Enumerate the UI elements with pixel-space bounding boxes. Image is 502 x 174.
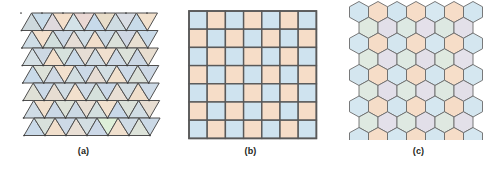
- lattice-vertex: [20, 12, 22, 14]
- lattice-vertex: [128, 135, 130, 137]
- lattice-vertex: [23, 135, 25, 137]
- square-cell: [207, 120, 225, 138]
- lattice-vertex: [107, 117, 109, 119]
- square-cell: [225, 11, 243, 29]
- square-cell: [280, 47, 298, 65]
- lattice-vertex: [147, 47, 149, 49]
- panel-b-square-tiling: (b): [167, 0, 334, 174]
- square-cell: [262, 66, 280, 84]
- tilings-figure: (a) (b) (c): [0, 0, 502, 174]
- square-tiling-canvas: [167, 0, 334, 140]
- lattice-vertex: [86, 135, 88, 137]
- square-cell: [244, 66, 262, 84]
- lattice-vertex: [44, 117, 46, 119]
- lattice-vertex: [22, 82, 24, 84]
- lattice-vertex: [21, 30, 23, 32]
- square-cell: [225, 120, 243, 138]
- square-cell: [189, 66, 207, 84]
- lattice-vertex: [127, 82, 129, 84]
- lattice-vertex: [65, 117, 67, 119]
- triangular-tiling-canvas: [0, 0, 167, 140]
- lattice-vertex: [43, 82, 45, 84]
- square-cell: [207, 29, 225, 47]
- lattice-vertex: [149, 135, 151, 137]
- square-cells: [189, 11, 316, 138]
- square-cell: [189, 120, 207, 138]
- lattice-vertex: [42, 65, 44, 67]
- lattice-vertex: [83, 12, 85, 14]
- lattice-vertex: [43, 100, 45, 102]
- lattice-vertex: [104, 12, 106, 14]
- square-cell: [244, 11, 262, 29]
- square-cell: [189, 29, 207, 47]
- lattice-vertex: [126, 30, 128, 32]
- panel-c-label: (c): [335, 146, 502, 156]
- panel-b-label: (b): [167, 146, 334, 156]
- square-cell: [280, 120, 298, 138]
- lattice-vertex: [84, 65, 86, 67]
- lattice-vertex: [64, 82, 66, 84]
- square-cell: [244, 47, 262, 65]
- lattice-vertex: [128, 117, 130, 119]
- lattice-vertex: [42, 30, 44, 32]
- square-cell: [280, 29, 298, 47]
- lattice-vertex: [148, 100, 150, 102]
- lattice-vertex: [126, 47, 128, 49]
- lattice-vertex: [105, 30, 107, 32]
- square-cell: [262, 29, 280, 47]
- lattice-vertex: [126, 65, 128, 67]
- square-cell: [244, 120, 262, 138]
- square-tiling-svg: [167, 0, 334, 140]
- lattice-vertex: [62, 12, 64, 14]
- triangular-tiling-svg: [0, 0, 167, 140]
- lattice-vertex: [105, 47, 107, 49]
- lattice-vertex: [106, 82, 108, 84]
- square-cell: [298, 120, 316, 138]
- lattice-vertex: [64, 100, 66, 102]
- square-cell: [207, 47, 225, 65]
- lattice-vertex: [147, 65, 149, 67]
- square-cell: [244, 29, 262, 47]
- square-cell: [298, 11, 316, 29]
- square-cell: [262, 102, 280, 120]
- lattice-vertex: [22, 100, 24, 102]
- square-cell: [298, 29, 316, 47]
- lattice-vertex: [44, 135, 46, 137]
- lattice-vertex: [21, 47, 23, 49]
- lattice-vertex: [42, 47, 44, 49]
- lattice-vertex: [127, 100, 129, 102]
- lattice-vertex: [105, 65, 107, 67]
- square-cell: [207, 102, 225, 120]
- lattice-vertex: [65, 135, 67, 137]
- lattice-vertex: [84, 30, 86, 32]
- lattice-vertex: [146, 12, 148, 14]
- hexagon-cells: [350, 2, 483, 141]
- hexagonal-tiling-canvas: [335, 0, 502, 140]
- square-cell: [225, 102, 243, 120]
- triangle-cells: [21, 13, 160, 136]
- square-cell: [244, 102, 262, 120]
- square-cell: [280, 102, 298, 120]
- square-cell: [207, 11, 225, 29]
- square-cell: [189, 11, 207, 29]
- lattice-vertex: [125, 12, 127, 14]
- square-cell: [262, 84, 280, 102]
- square-cell: [298, 66, 316, 84]
- square-cell: [189, 47, 207, 65]
- lattice-vertex: [21, 65, 23, 67]
- lattice-vertex: [84, 47, 86, 49]
- square-cell: [298, 102, 316, 120]
- square-cell: [280, 11, 298, 29]
- lattice-vertex: [106, 100, 108, 102]
- square-cell: [225, 47, 243, 65]
- square-cell: [244, 84, 262, 102]
- lattice-vertex: [23, 117, 25, 119]
- square-cell: [262, 11, 280, 29]
- square-cell: [225, 84, 243, 102]
- panel-a-triangular-tiling: (a): [0, 0, 167, 174]
- lattice-vertex: [41, 12, 43, 14]
- lattice-vertex: [86, 117, 88, 119]
- square-cell: [280, 84, 298, 102]
- square-cell: [262, 47, 280, 65]
- lattice-vertex: [148, 82, 150, 84]
